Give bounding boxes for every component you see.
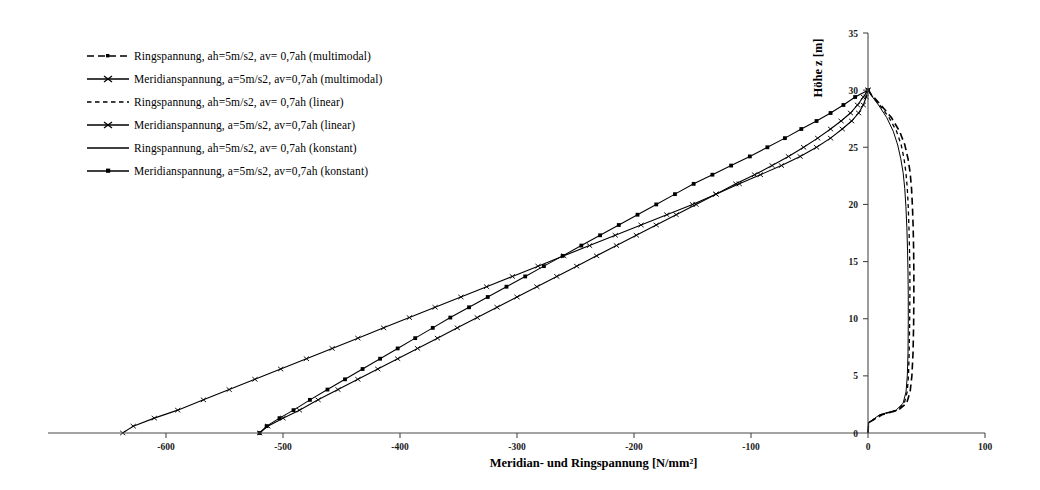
x-tick-label: -100 [742, 442, 760, 452]
x-tick-label: -300 [508, 442, 526, 452]
y-tick-label: 15 [849, 257, 859, 267]
axis-layer [48, 33, 985, 438]
series-4 [868, 90, 908, 433]
series-path [868, 90, 910, 433]
y-tick-label: 0 [853, 429, 858, 439]
y-tick-label: 35 [849, 29, 859, 39]
x-tick-label: -400 [391, 442, 409, 452]
series-layer [120, 88, 914, 435]
series-3 [257, 88, 871, 435]
x-axis-title: Meridian- und Ringspannung [N/mm²] [490, 456, 698, 470]
x-tick-label: -200 [625, 442, 643, 452]
x-tick-label: 100 [978, 442, 993, 452]
series-2 [868, 90, 910, 433]
series-1 [120, 88, 870, 435]
series-path [868, 90, 908, 433]
y-axis-title: Höhe z [m] [811, 38, 825, 97]
y-tick-label: 20 [849, 200, 859, 210]
x-tick-label: 0 [866, 442, 871, 452]
chart-plot-area: -600-500-400-300-200-1000100051015202530… [0, 0, 1040, 490]
y-tick-label: 25 [849, 143, 859, 153]
y-tick-label: 30 [849, 86, 859, 96]
series-path [123, 90, 868, 433]
y-tick-label: 5 [853, 371, 858, 381]
y-tick-label: 10 [849, 314, 859, 324]
chart-root: Ringspannung, ah=5m/s2, av= 0,7ah (multi… [0, 0, 1040, 490]
series-5 [258, 88, 870, 435]
x-tick-label: -600 [157, 442, 175, 452]
x-tick-label: -500 [274, 442, 292, 452]
series-path [260, 90, 868, 433]
series-path [260, 90, 868, 433]
